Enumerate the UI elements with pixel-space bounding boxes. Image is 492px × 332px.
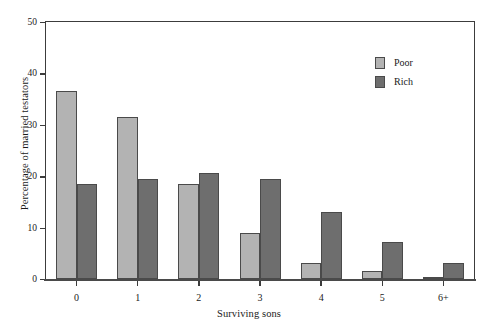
legend-item-poor[interactable]: Poor <box>375 53 413 72</box>
bar-poor-4 <box>301 263 322 279</box>
bar-rich-5 <box>382 242 403 279</box>
y-axis-title: Percentage of married testators <box>19 34 30 254</box>
bar-poor-0 <box>56 91 77 279</box>
y-axis-tick <box>40 228 46 229</box>
x-axis-tick <box>137 280 138 286</box>
x-axis-title: Surviving sons <box>24 308 474 319</box>
x-axis-tick-label: 3 <box>258 292 263 303</box>
y-axis-tick-label: 40 <box>28 68 38 78</box>
bar-rich-3 <box>260 179 281 279</box>
x-axis-tick-label: 4 <box>319 292 324 303</box>
bar-rich-1 <box>138 179 159 279</box>
legend-swatch-rich <box>375 76 385 88</box>
bar-poor-2 <box>178 184 199 279</box>
y-axis-tick <box>40 125 46 126</box>
legend-item-rich[interactable]: Rich <box>375 72 413 91</box>
x-axis-tick <box>382 280 383 286</box>
x-axis-tick-label: 5 <box>380 292 385 303</box>
legend-label-poor: Poor <box>394 57 413 68</box>
bar-rich-6plus <box>443 263 464 279</box>
legend-swatch-poor <box>375 57 385 69</box>
bar-poor-5 <box>362 271 383 279</box>
y-axis-tick-label: 0 <box>32 274 37 284</box>
x-axis-tick <box>259 280 260 286</box>
y-axis-tick <box>40 176 46 177</box>
bar-rich-4 <box>321 212 342 279</box>
bar-rich-2 <box>199 173 220 279</box>
x-axis-tick <box>443 280 444 286</box>
y-axis-tick <box>40 279 46 280</box>
bar-poor-6plus <box>423 277 444 279</box>
bar-chart: Percentage of married testators 01020304… <box>0 0 492 332</box>
x-axis-tick <box>76 280 77 286</box>
y-axis-tick-label: 30 <box>28 120 38 130</box>
x-axis-tick <box>320 280 321 286</box>
x-axis-tick <box>198 280 199 286</box>
bar-poor-1 <box>117 117 138 279</box>
bar-rich-0 <box>77 184 98 279</box>
y-axis-tick-label: 10 <box>28 223 38 233</box>
y-axis-tick <box>40 22 46 23</box>
legend-label-rich: Rich <box>394 76 413 87</box>
y-axis-tick <box>40 73 46 74</box>
x-axis-tick-label: 0 <box>74 292 79 303</box>
y-axis-tick-label: 50 <box>28 17 38 27</box>
x-axis-tick-label: 1 <box>135 292 140 303</box>
legend: PoorRich <box>375 53 413 91</box>
x-axis-tick-label: 6+ <box>438 292 449 303</box>
x-axis-tick-label: 2 <box>196 292 201 303</box>
y-axis-tick-label: 20 <box>28 171 38 181</box>
bar-poor-3 <box>240 233 261 279</box>
